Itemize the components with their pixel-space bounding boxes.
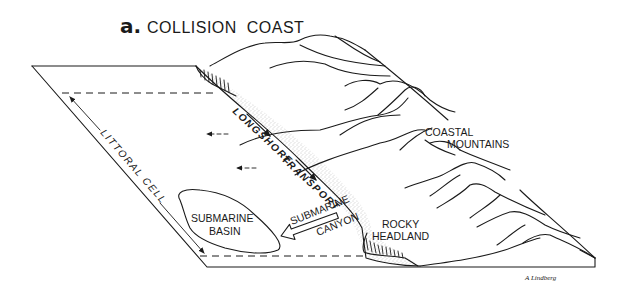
- collision-coast-diagram: a. COLLISION COAST LITTORAL CELL: [0, 0, 626, 301]
- title-text: COLLISION COAST: [147, 19, 304, 36]
- coastal-label: COASTAL: [425, 126, 473, 138]
- rocky-label: ROCKY: [382, 218, 419, 230]
- offshore-transport-arrows: [207, 134, 256, 168]
- littoral-cell-label: LITTORAL CELL: [98, 127, 168, 206]
- artist-signature: A Lindberg: [524, 274, 557, 282]
- submarine-basin-label-1: SUBMARINE: [191, 212, 253, 224]
- submarine-basin-label-2: BASIN: [209, 225, 241, 237]
- headland-label: HEADLAND: [372, 230, 430, 242]
- panel-letter: a.: [120, 14, 141, 38]
- diagram-title: a. COLLISION COAST: [120, 14, 304, 38]
- mountains-label: MOUNTAINS: [447, 138, 509, 150]
